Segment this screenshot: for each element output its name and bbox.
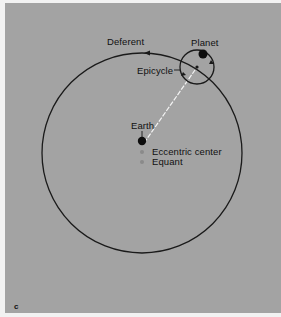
earth-label: Earth bbox=[131, 121, 154, 131]
equant-label: Equant bbox=[152, 157, 183, 167]
earth-dot bbox=[138, 137, 146, 145]
deferent-arrow-icon bbox=[144, 51, 150, 56]
planet-dot bbox=[199, 50, 208, 59]
epicycle-label: Epicycle bbox=[137, 66, 173, 76]
equant-dot bbox=[140, 160, 144, 164]
planet-label: Planet bbox=[191, 38, 219, 48]
deferent-label: Deferent bbox=[107, 37, 144, 47]
panel-letter: c bbox=[14, 303, 19, 311]
ptolemaic-model-diagram bbox=[0, 0, 281, 317]
epicycle-center-dot bbox=[195, 65, 198, 68]
eccentric-center-dot bbox=[140, 150, 144, 154]
